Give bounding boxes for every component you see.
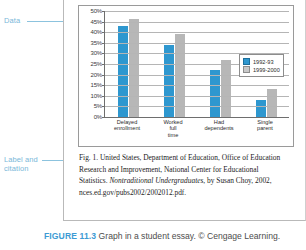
y-axis-tick-label: 5% (94, 103, 102, 109)
y-axis-tick-label: 45% (91, 19, 102, 25)
x-axis-category-label: Singleparent (244, 119, 286, 138)
annotation-label-line1: Label and (4, 155, 38, 164)
chart-legend: 1992-931999-2000 (239, 54, 284, 77)
citation-source-title: Nontraditional Undergraduates (109, 176, 203, 185)
citation-line-2: Research and Improvement, National Cente… (79, 164, 297, 176)
x-axis-category-label: Delayedenrollment (106, 119, 148, 138)
chart-x-axis: DelayedenrollmentWorkedfulltimeHaddepend… (104, 119, 288, 138)
chart-gridline (105, 32, 289, 33)
chart-plot-wrapper: 50%45%40%35%30%25%20%15%10%5%0% Delayede… (79, 6, 293, 146)
figure-caption-text: Graph in a student essay. © Cengage Lear… (99, 231, 281, 241)
x-axis-category-label: Haddependents (198, 119, 240, 138)
chart-gridline (105, 96, 289, 97)
chart-gridline (105, 11, 289, 12)
document-page: 50%45%40%35%30%25%20%15%10%5%0% Delayede… (63, 0, 306, 221)
bar-1 (267, 89, 277, 117)
y-axis-tick-label: 40% (91, 29, 102, 35)
figure-number: FIGURE 11.3 (44, 231, 96, 241)
bar-0 (256, 100, 266, 117)
citation-line-3-suffix: , by Susan Choy, 2002, (203, 176, 271, 185)
y-axis-tick-label: 0% (94, 114, 102, 120)
chart-gridline (105, 106, 289, 107)
bar-0 (118, 26, 128, 117)
y-axis-tick-label: 35% (91, 40, 102, 46)
figure-caption: FIGURE 11.3 Graph in a student essay. © … (44, 231, 306, 241)
figure-citation: Fig. 1. United States, Department of Edu… (79, 152, 297, 198)
y-axis-tick-label: 25% (91, 61, 102, 67)
bar-1 (129, 19, 139, 117)
annotation-data-label: Data (4, 16, 20, 25)
legend-item: 1992-93 (243, 58, 280, 65)
chart-gridline (105, 43, 289, 44)
citation-line-3: Statistics. Nontraditional Undergraduate… (79, 175, 297, 187)
chart-figure: 50%45%40%35%30%25%20%15%10%5%0% Delayede… (78, 5, 294, 147)
legend-swatch-icon (243, 66, 250, 73)
legend-label: 1992-93 (253, 59, 274, 65)
annotation-label-line2: citation (4, 164, 38, 173)
bar-0 (210, 70, 220, 117)
chart-gridline (105, 85, 289, 86)
y-axis-tick-mark (102, 117, 105, 118)
chart-y-axis: 50%45%40%35%30%25%20%15%10%5%0% (81, 11, 102, 117)
x-axis-category-label: Workedfulltime (152, 119, 194, 138)
y-axis-tick-label: 30% (91, 50, 102, 56)
chart-gridline (105, 22, 289, 23)
bar-1 (175, 34, 185, 117)
legend-swatch-icon (243, 58, 250, 65)
y-axis-tick-label: 20% (91, 72, 102, 78)
citation-url: nces.ed.gov/pubs2002/2002012.pdf. (79, 187, 297, 199)
bar-1 (221, 60, 231, 117)
y-axis-tick-label: 15% (91, 82, 102, 88)
y-axis-tick-label: 50% (91, 8, 102, 14)
citation-line-3-prefix: Statistics. (79, 176, 109, 185)
citation-line-1: Fig. 1. United States, Department of Edu… (79, 152, 297, 164)
legend-label: 1999-2000 (253, 67, 280, 73)
annotation-label-citation: Label and citation (4, 155, 38, 173)
legend-item: 1999-2000 (243, 66, 280, 73)
y-axis-tick-label: 10% (91, 93, 102, 99)
annotation-data-text: Data (4, 16, 20, 25)
